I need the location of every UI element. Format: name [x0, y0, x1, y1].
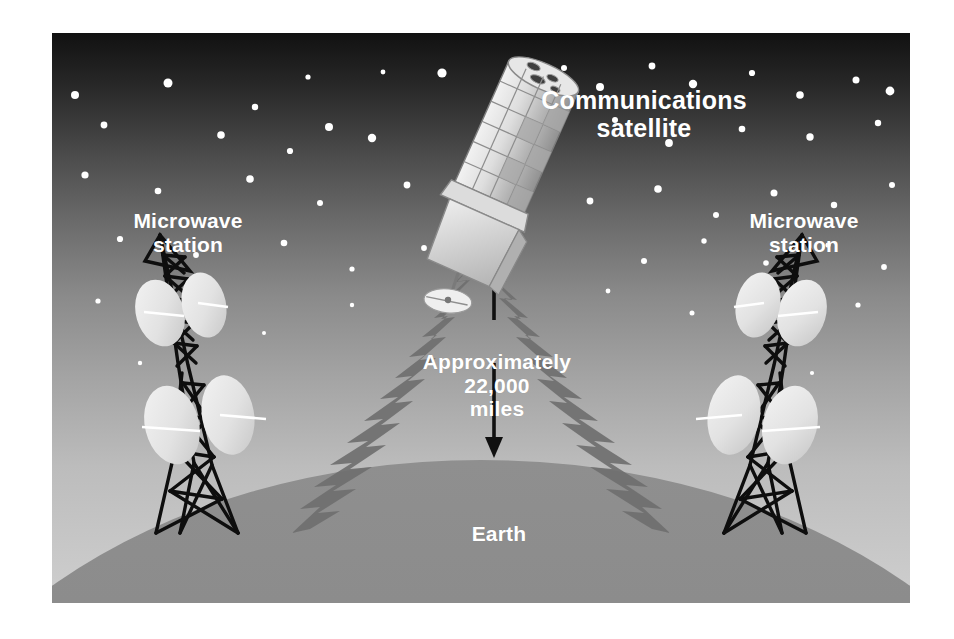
diagram-page: Communications satellite Microwave stati…	[0, 0, 954, 639]
satellite-diagram-figure: Communications satellite Microwave stati…	[52, 33, 910, 603]
diagram-canvas	[52, 33, 910, 603]
